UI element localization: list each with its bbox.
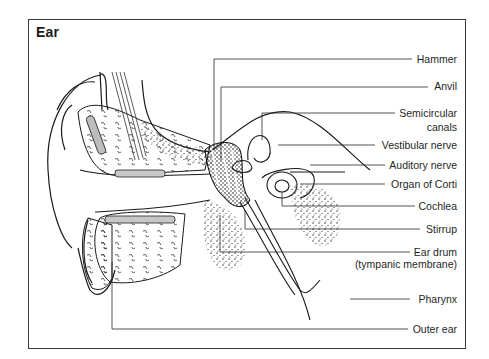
label-ear-drum-line2: (tympanic membrane) — [355, 258, 457, 270]
label-hammer: Hammer — [417, 53, 457, 65]
label-outer-ear: Outer ear — [413, 323, 457, 335]
label-cochlea: Cochlea — [418, 200, 457, 212]
label-semicircular-canals: Semicircular — [399, 107, 457, 119]
lower-stipple — [203, 200, 245, 270]
temporal-stipple — [290, 184, 340, 247]
label-semicircular-canals-line2: canals — [427, 121, 457, 133]
label-anvil: Anvil — [434, 80, 457, 92]
label-pharynx: Pharynx — [418, 293, 457, 305]
label-ear-drum: Ear drum — [414, 246, 457, 258]
label-vestibular-nerve: Vestibular nerve — [382, 139, 457, 151]
leader-lines — [112, 59, 428, 329]
label-organ-of-corti: Organ of Corti — [391, 178, 457, 190]
label-auditory-nerve: Auditory nerve — [389, 159, 457, 171]
lobe — [82, 218, 112, 290]
label-stirrup: Stirrup — [426, 223, 457, 235]
